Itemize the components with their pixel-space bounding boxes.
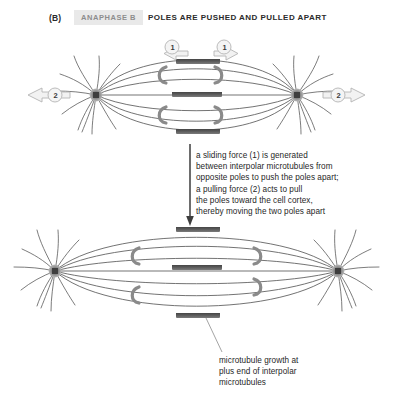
bottom-spindle-cell <box>14 227 379 352</box>
interpolar-microtubules-bottom <box>55 237 338 306</box>
microtubule-growth-annotation: microtubule growth at plus end of interp… <box>219 355 391 389</box>
spindle-pole-right-bottom <box>332 265 345 278</box>
pulling-force-arrow-left <box>28 88 70 102</box>
astral-microtubules-left-bottom <box>14 230 79 311</box>
astral-microtubules-right-bottom <box>314 230 379 311</box>
anaphase-b-figure: (B) ANAPHASE B POLES ARE PUSHED AND PULL… <box>0 0 394 393</box>
spindle-pole-left-top <box>90 89 103 102</box>
chromosome-bar <box>176 313 220 318</box>
chromosome-bar <box>176 129 220 134</box>
motor-proteins-bottom <box>132 248 261 303</box>
chromosome-bar <box>176 227 220 232</box>
chromosome-bar <box>176 59 220 64</box>
growth-leader-line <box>206 318 222 352</box>
pulling-force-label-right: 2 <box>334 91 343 100</box>
chromosome-bar <box>172 265 222 270</box>
transition-arrow <box>186 144 194 226</box>
chromosome-bar <box>172 92 222 97</box>
pulling-force-label-left: 2 <box>51 91 60 100</box>
spindle-pole-right-top <box>291 89 304 102</box>
sliding-force-label-right: 1 <box>220 43 229 52</box>
sliding-force-label-left: 1 <box>168 43 177 52</box>
pulling-force-arrow-right <box>323 88 365 102</box>
chromosomes-bottom <box>172 227 222 318</box>
top-spindle-cell <box>28 40 365 134</box>
sliding-and-pulling-force-annotation: a sliding force (1) is generated between… <box>196 150 392 217</box>
spindle-pole-left-bottom <box>49 265 62 278</box>
